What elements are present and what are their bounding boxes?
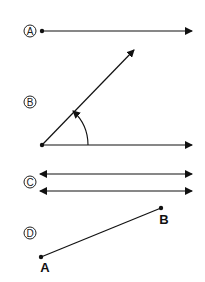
figure-label-a: A bbox=[27, 26, 34, 37]
figure-label-d: D bbox=[26, 228, 33, 239]
angle-ray-upper bbox=[42, 50, 134, 145]
geometry-diagram: A B C D A B bbox=[0, 0, 205, 282]
figure-a: A bbox=[24, 25, 192, 37]
point-label-b: B bbox=[159, 212, 168, 227]
figure-d: D A B bbox=[24, 206, 169, 275]
segment-endpoint-a bbox=[39, 255, 43, 259]
point-label-a: A bbox=[40, 260, 50, 275]
figure-b: B bbox=[24, 50, 192, 147]
line-segment bbox=[41, 208, 161, 257]
segment-endpoint-b bbox=[159, 206, 163, 210]
figure-label-b: B bbox=[27, 97, 34, 108]
angle-arc-arrow-icon bbox=[73, 111, 88, 145]
figure-label-c: C bbox=[26, 177, 33, 188]
figure-c: C bbox=[24, 174, 192, 191]
